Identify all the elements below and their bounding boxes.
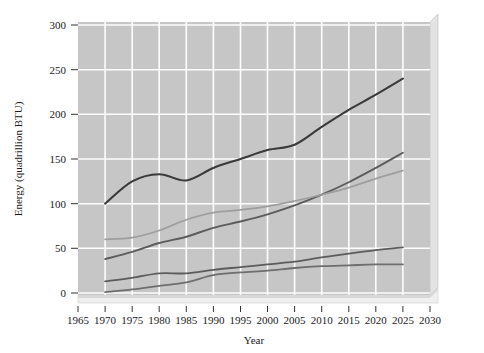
xtick-label-1995: 1995 bbox=[230, 314, 253, 326]
ytick-label-150: 150 bbox=[50, 153, 67, 165]
xtick-label-2025: 2025 bbox=[392, 314, 415, 326]
ytick-label-300: 300 bbox=[50, 19, 67, 31]
ytick-label-50: 50 bbox=[55, 242, 67, 254]
xtick-label-1985: 1985 bbox=[175, 314, 198, 326]
xtick-label-2015: 2015 bbox=[338, 314, 361, 326]
xtick-label-1980: 1980 bbox=[148, 314, 171, 326]
xtick-label-1990: 1990 bbox=[202, 314, 225, 326]
x-axis-title: Year bbox=[244, 334, 265, 346]
energy-line-chart: 300 250 200 150 100 50 0 Energy (quadril… bbox=[0, 0, 484, 353]
xtick-label-1975: 1975 bbox=[121, 314, 144, 326]
xtick-label-2000: 2000 bbox=[257, 314, 280, 326]
xtick-label-2005: 2005 bbox=[284, 314, 307, 326]
xtick-label-2010: 2010 bbox=[311, 314, 334, 326]
ytick-label-250: 250 bbox=[50, 64, 67, 76]
plot-right-bevel bbox=[430, 14, 438, 295]
ytick-label-100: 100 bbox=[50, 198, 67, 210]
y-axis-title: Energy (quadrillion BTU) bbox=[12, 101, 25, 216]
ytick-label-200: 200 bbox=[50, 108, 67, 120]
xtick-label-1970: 1970 bbox=[94, 314, 117, 326]
xtick-label-1965: 1965 bbox=[67, 314, 90, 326]
ytick-label-0: 0 bbox=[61, 287, 67, 299]
xtick-label-2030: 2030 bbox=[419, 314, 442, 326]
xtick-label-2020: 2020 bbox=[365, 314, 388, 326]
